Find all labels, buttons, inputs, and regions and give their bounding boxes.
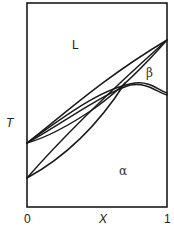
- dome-upper-curve: [27, 83, 167, 143]
- beta-boundary-line: [27, 40, 167, 178]
- x-axis-label: X: [98, 212, 108, 226]
- phase-diagram: L β α T X 0 1: [0, 0, 174, 237]
- region-label-beta: β: [146, 66, 153, 80]
- y-axis-label: T: [6, 116, 15, 130]
- dome-lower-curve: [27, 84, 167, 143]
- region-label-liquid: L: [72, 38, 79, 52]
- region-label-alpha: α: [119, 164, 127, 178]
- x-tick-0: 0: [24, 212, 31, 226]
- x-tick-1: 1: [164, 212, 171, 226]
